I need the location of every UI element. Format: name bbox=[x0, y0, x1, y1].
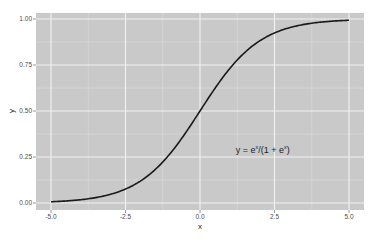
y-tick-label: 0.50 bbox=[19, 107, 32, 114]
x-tick-label: -5.0 bbox=[45, 213, 57, 220]
x-tick-label: 5.0 bbox=[344, 213, 353, 220]
x-tick-label: 2.5 bbox=[270, 213, 279, 220]
y-tick-label: 0.00 bbox=[19, 199, 32, 206]
x-axis-title: x bbox=[198, 222, 202, 231]
y-axis-title: y bbox=[7, 109, 16, 113]
y-axis: 0.000.250.500.751.00 bbox=[19, 15, 36, 206]
y-tick-label: 0.25 bbox=[19, 153, 32, 160]
x-tick-label: -2.5 bbox=[120, 213, 132, 220]
formula-annotation: y = ex/(1 + ex) bbox=[236, 144, 290, 155]
y-tick-label: 0.75 bbox=[19, 61, 32, 68]
logistic-chart: -5.0-2.50.02.55.0 0.000.250.500.751.00 x… bbox=[0, 0, 376, 247]
y-tick-label: 1.00 bbox=[19, 15, 32, 22]
x-tick-label: 0.0 bbox=[195, 213, 204, 220]
x-axis: -5.0-2.50.02.55.0 bbox=[45, 210, 353, 220]
